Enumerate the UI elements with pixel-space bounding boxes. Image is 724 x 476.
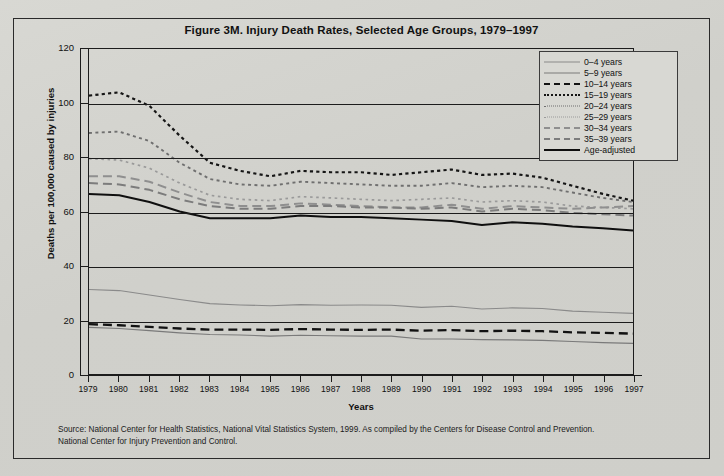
x-tick-1989 xyxy=(391,375,392,382)
legend-item-15-19-years: 15–19 years xyxy=(544,89,672,100)
gridline-20 xyxy=(89,322,633,323)
legend-label: 25–29 years xyxy=(584,112,632,122)
y-axis-labels: Deaths per 100,000 caused by injuries xyxy=(24,0,76,476)
x-tick-1996 xyxy=(604,375,605,382)
legend-swatch-icon xyxy=(544,90,580,100)
y-tick-80 xyxy=(80,157,89,158)
x-tick-1980 xyxy=(118,375,119,382)
legend-label: 20–24 years xyxy=(584,101,632,111)
x-tick-1986 xyxy=(300,375,301,382)
source-note: Source: National Center for Health Stati… xyxy=(58,424,678,449)
series-line-25-29-years xyxy=(89,159,633,209)
source-line-1: Source: National Center for Health Stati… xyxy=(58,424,678,436)
chart-title: Figure 3M. Injury Death Rates, Selected … xyxy=(13,24,710,36)
y-tick-60 xyxy=(80,212,89,213)
x-tick-1992 xyxy=(482,375,483,382)
x-tick-1981 xyxy=(149,375,150,382)
y-tick-label-40: 40 xyxy=(28,260,74,271)
legend-item-0-4-years: 0–4 years xyxy=(544,56,672,67)
legend-swatch-icon xyxy=(544,68,580,78)
y-tick-label-120: 120 xyxy=(28,42,74,53)
legend-label: 30–34 years xyxy=(584,123,632,133)
y-tick-label-0: 0 xyxy=(28,369,74,380)
legend-label: 10–14 years xyxy=(584,79,632,89)
y-tick-40 xyxy=(80,266,89,267)
x-tick-1982 xyxy=(179,375,180,382)
legend-swatch-icon xyxy=(544,123,580,133)
y-tick-20 xyxy=(80,321,89,322)
legend-item-30-34-years: 30–34 years xyxy=(544,123,672,134)
x-tick-label-1997: 1997 xyxy=(614,384,654,394)
x-tick-1983 xyxy=(209,375,210,382)
x-tick-1991 xyxy=(452,375,453,382)
chart-legend: 0–4 years5–9 years10–14 years15–19 years… xyxy=(539,51,678,161)
source-line-2: National Center for Injury Prevention an… xyxy=(58,436,678,448)
legend-label: 35–39 years xyxy=(584,134,632,144)
y-tick-label-20: 20 xyxy=(28,315,74,326)
legend-item-10-14-years: 10–14 years xyxy=(544,78,672,89)
x-tick-1988 xyxy=(361,375,362,382)
x-tick-1987 xyxy=(331,375,332,382)
legend-item-20-24-years: 20–24 years xyxy=(544,100,672,111)
gridline-60 xyxy=(89,213,633,214)
legend-swatch-icon xyxy=(544,57,580,67)
y-tick-label-100: 100 xyxy=(28,97,74,108)
x-tick-1984 xyxy=(240,375,241,382)
y-tick-100 xyxy=(80,103,89,104)
legend-swatch-icon xyxy=(544,79,580,89)
legend-label: 15–19 years xyxy=(584,90,632,100)
legend-label: 0–4 years xyxy=(584,57,622,67)
legend-item-age-adjusted: Age-adjusted xyxy=(544,145,672,156)
y-tick-label-60: 60 xyxy=(28,206,74,217)
legend-item-5-9-years: 5–9 years xyxy=(544,67,672,78)
legend-swatch-icon xyxy=(544,134,580,144)
x-tick-1985 xyxy=(270,375,271,382)
y-tick-120 xyxy=(80,48,89,49)
legend-label: Age-adjusted xyxy=(584,145,635,155)
legend-label: 5–9 years xyxy=(584,68,622,78)
legend-item-25-29-years: 25–29 years xyxy=(544,111,672,122)
legend-swatch-icon xyxy=(544,112,580,122)
x-tick-1995 xyxy=(573,375,574,382)
legend-item-35-39-years: 35–39 years xyxy=(544,134,672,145)
legend-swatch-icon xyxy=(544,145,580,155)
x-tick-1994 xyxy=(543,375,544,382)
x-tick-1979 xyxy=(88,375,89,382)
gridline-40 xyxy=(89,267,633,268)
y-tick-label-80: 80 xyxy=(28,151,74,162)
scanned-page: Figure 3M. Injury Death Rates, Selected … xyxy=(0,0,724,476)
legend-swatch-icon xyxy=(544,101,580,111)
x-tick-1993 xyxy=(513,375,514,382)
x-tick-1997 xyxy=(634,375,635,382)
x-tick-1990 xyxy=(422,375,423,382)
series-line-0-4-years xyxy=(89,290,633,314)
x-axis-title: Years xyxy=(88,401,634,412)
